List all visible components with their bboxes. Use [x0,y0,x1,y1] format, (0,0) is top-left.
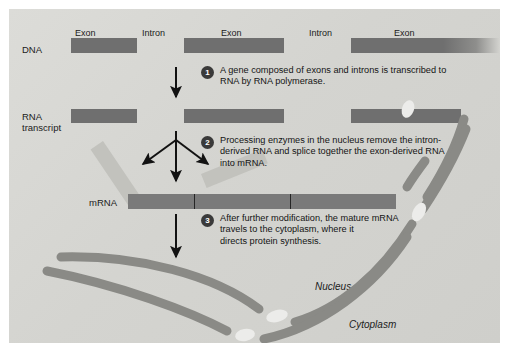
splice-arrow-left-icon [143,140,176,164]
splice-arrow-group [143,131,208,181]
membrane-fragment-right [407,161,425,187]
diagram-panel: Exon Intron Exon Intron Exon DNA 1 A gen… [9,9,500,343]
nuclear-pore-3 [234,327,256,342]
nuclear-pore-1 [265,308,289,325]
splice-arrow-right-icon [176,140,208,164]
nuclear-pore-4 [399,98,416,119]
diagram-vector-overlay [9,9,500,343]
gene-expression-diagram: Exon Intron Exon Intron Exon DNA 1 A gen… [0,0,509,356]
